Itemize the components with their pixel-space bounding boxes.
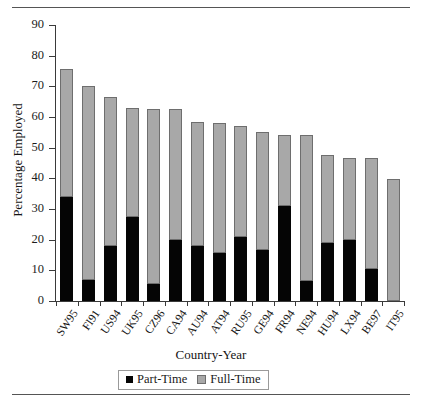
legend-item-part-time: Part-Time: [126, 372, 187, 387]
x-tick: [121, 301, 122, 306]
y-tick: [49, 25, 55, 26]
bar-ne94: [300, 25, 313, 301]
x-tick: [382, 301, 383, 306]
bar-segment-part-time: [147, 284, 160, 301]
bar-segment-full-time: [256, 132, 269, 250]
bar-segment-full-time: [191, 122, 204, 246]
bar-segment-part-time: [169, 240, 182, 301]
x-tick: [252, 301, 253, 306]
x-tick: [274, 301, 275, 306]
bar-segment-part-time: [256, 250, 269, 301]
x-tick: [339, 301, 340, 306]
bar-us94: [104, 25, 117, 301]
bar-ca94: [169, 25, 182, 301]
bar-at94: [213, 25, 226, 301]
x-axis-title: Country-Year: [0, 347, 422, 363]
bar-segment-full-time: [300, 135, 313, 281]
bar-segment-full-time: [213, 123, 226, 253]
y-tick: [49, 117, 55, 118]
bar-segment-full-time: [321, 155, 334, 242]
x-tick: [187, 301, 188, 306]
bar-segment-full-time: [104, 97, 117, 246]
top-rule: [12, 7, 410, 8]
y-axis-title: Percentage Employed: [10, 70, 26, 250]
bar-segment-full-time: [126, 108, 139, 217]
bar-sw95: [60, 25, 73, 301]
x-tick: [404, 301, 405, 306]
bar-segment-part-time: [365, 269, 378, 301]
x-tick: [165, 301, 166, 306]
y-tick: [49, 301, 55, 302]
bar-segment-part-time: [213, 253, 226, 301]
bar-segment-part-time: [126, 217, 139, 301]
bar-lx94: [343, 25, 356, 301]
x-tick: [295, 301, 296, 306]
x-tick: [361, 301, 362, 306]
bar-uk95: [126, 25, 139, 301]
y-tick: [49, 148, 55, 149]
bar-segment-part-time: [82, 280, 95, 301]
y-tick: [49, 178, 55, 179]
bar-segment-part-time: [104, 246, 117, 301]
bar-it95: [387, 25, 400, 301]
y-tick: [49, 56, 55, 57]
bar-segment-part-time: [343, 240, 356, 301]
legend-label-full-time: Full-Time: [210, 372, 260, 387]
x-tick: [143, 301, 144, 306]
x-tick: [78, 301, 79, 306]
plot-area: [56, 25, 404, 301]
x-tick: [56, 301, 57, 306]
bar-segment-part-time: [60, 197, 73, 301]
bar-segment-part-time: [191, 246, 204, 301]
x-tick: [100, 301, 101, 306]
legend-item-full-time: Full-Time: [197, 372, 260, 387]
x-tick: [317, 301, 318, 306]
bar-hu94: [321, 25, 334, 301]
y-tick: [49, 240, 55, 241]
bar-segment-full-time: [82, 86, 95, 279]
y-tick: [49, 209, 55, 210]
bar-segment-full-time: [60, 69, 73, 196]
x-tick: [208, 301, 209, 306]
bar-cz96: [147, 25, 160, 301]
bar-ge94: [256, 25, 269, 301]
y-tick-label: 10: [14, 263, 44, 276]
bar-segment-full-time: [234, 126, 247, 236]
bar-fr94: [278, 25, 291, 301]
legend-swatch-part-time: [126, 376, 133, 383]
y-tick-label: 80: [14, 49, 44, 62]
bar-be97: [365, 25, 378, 301]
figure: 0102030405060708090 SW95FI91US94UK95CZ96…: [0, 0, 422, 403]
bottom-rule: [12, 394, 410, 395]
x-tick: [230, 301, 231, 306]
legend-swatch-full-time: [197, 375, 206, 384]
y-tick: [49, 270, 55, 271]
bar-segment-part-time: [321, 243, 334, 301]
bar-segment-full-time: [343, 158, 356, 239]
bar-au94: [191, 25, 204, 301]
y-tick-label: 0: [14, 294, 44, 307]
y-tick-label: 90: [14, 18, 44, 31]
bar-segment-part-time: [300, 281, 313, 301]
y-tick: [49, 86, 55, 87]
legend: Part-Time Full-Time: [118, 370, 269, 390]
bar-segment-full-time: [278, 135, 291, 206]
bar-segment-part-time: [278, 206, 291, 301]
bar-ru95: [234, 25, 247, 301]
bar-segment-full-time: [387, 179, 400, 301]
bar-segment-full-time: [147, 109, 160, 284]
bar-fi91: [82, 25, 95, 301]
bar-segment-full-time: [365, 158, 378, 268]
legend-label-part-time: Part-Time: [137, 372, 187, 387]
bar-segment-full-time: [169, 109, 182, 239]
bar-segment-part-time: [234, 237, 247, 301]
